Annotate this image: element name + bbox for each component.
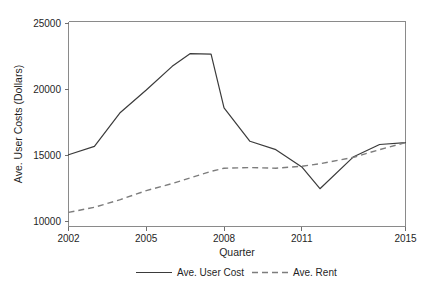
y-tick-label: 20000 (33, 84, 61, 95)
chart-legend: Ave. User Cost Ave. Rent (136, 267, 337, 278)
x-tick-label: 2002 (57, 233, 80, 244)
y-axis-tick-labels: 25000 20000 15000 10000 (33, 18, 61, 227)
x-axis-tick-labels: 2002 2005 2008 2011 2015 (57, 233, 417, 244)
x-tick-label: 2011 (291, 233, 313, 244)
line-chart: 25000 20000 15000 10000 2002 2005 2008 2… (0, 0, 427, 289)
y-tick-label: 10000 (33, 216, 61, 227)
x-axis-title: Quarter (219, 246, 255, 258)
legend-label-ave-user-cost: Ave. User Cost (177, 267, 244, 278)
x-tick-label: 2015 (394, 233, 417, 244)
legend-label-ave-rent: Ave. Rent (293, 267, 337, 278)
series-group (69, 54, 406, 213)
x-axis-ticks (69, 227, 406, 231)
y-axis-title: Ave. User Costs (Dollars) (12, 65, 24, 183)
series-line-ave-rent (69, 143, 406, 213)
y-axis-ticks (65, 24, 69, 222)
y-tick-label: 15000 (33, 150, 61, 161)
x-tick-label: 2005 (135, 233, 158, 244)
x-tick-label: 2008 (213, 233, 236, 244)
y-tick-label: 25000 (33, 18, 61, 29)
chart-figure: 25000 20000 15000 10000 2002 2005 2008 2… (0, 0, 427, 289)
